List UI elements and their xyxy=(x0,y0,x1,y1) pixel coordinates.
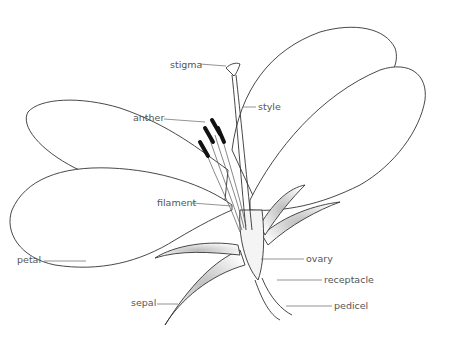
label-pedicel: pedicel xyxy=(334,301,368,311)
sepal-left xyxy=(165,250,245,325)
flower-illustration xyxy=(0,0,453,340)
label-filament: filament xyxy=(157,198,196,208)
sepal-left-2 xyxy=(155,243,240,258)
label-stigma: stigma xyxy=(170,60,202,70)
label-style: style xyxy=(258,102,281,112)
label-petal: petal xyxy=(17,255,41,265)
label-receptacle: receptacle xyxy=(324,275,374,285)
ovary-shape xyxy=(240,210,264,280)
label-ovary: ovary xyxy=(306,254,333,264)
label-sepal: sepal xyxy=(131,298,156,308)
pedicel-shape xyxy=(255,278,292,320)
flower-diagram: stigma style anther filament petal ovary… xyxy=(0,0,453,340)
stigma-shape xyxy=(226,63,240,76)
label-anther: anther xyxy=(133,113,164,123)
